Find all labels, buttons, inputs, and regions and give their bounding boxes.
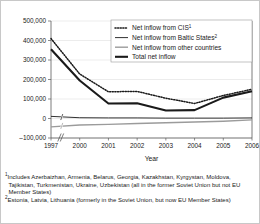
- legend-label-0: Net inflow from CIS1: [132, 24, 192, 31]
- x-axis-tick-label: 2004: [187, 142, 202, 149]
- footnote-2: 2Estonia, Latvia, Lithuania (formerly in…: [5, 197, 255, 205]
- x-axis-break-symbol: [58, 134, 64, 142]
- series-break-mark: [61, 114, 63, 120]
- y-axis-tick-label: 500,000: [23, 17, 47, 24]
- y-axis-tick-label: 400,000: [23, 37, 47, 44]
- y-axis-tick-label: 0: [42, 115, 46, 122]
- footnotes-block: 1Includes Azerbaizhan, Armenia, Belarus,…: [5, 174, 255, 204]
- y-axis-tick-label: 100,000: [23, 95, 47, 102]
- chart-figure: 500,000400,000300,000200,000100,0000–100…: [0, 0, 260, 224]
- y-axis-tick-label: 200,000: [23, 76, 47, 83]
- series-break-mark: [61, 123, 63, 129]
- legend-label-1: Net inflow from Baltic States2: [132, 34, 217, 41]
- legend-label-2: Net inflow from other countries: [132, 44, 222, 51]
- x-axis-tick-label: 2001: [101, 142, 116, 149]
- x-axis-tick-label: 2002: [130, 142, 145, 149]
- y-axis-tick-label: 300,000: [23, 56, 47, 63]
- series-line-2: [51, 120, 252, 127]
- y-axis-tick-label: –100,000: [19, 134, 46, 141]
- footnote-1: 1Includes Azerbaizhan, Armenia, Belarus,…: [5, 174, 255, 197]
- x-axis-tick-label: 2006: [245, 142, 260, 149]
- series-line-1: [51, 116, 252, 118]
- x-axis-title: Year: [145, 155, 159, 162]
- footnote-2-text: Estonia, Latvia, Lithuania (formerly in …: [8, 197, 231, 203]
- footnote-1-text: Includes Azerbaizhan, Armenia, Belarus, …: [8, 174, 241, 195]
- x-axis-tick-label: 1997: [44, 142, 59, 149]
- x-axis-tick-label: 2005: [216, 142, 231, 149]
- x-axis-tick-label: 2003: [159, 142, 174, 149]
- legend-label-3: Total net inflow: [132, 53, 176, 60]
- x-axis-tick-label: 2000: [73, 142, 88, 149]
